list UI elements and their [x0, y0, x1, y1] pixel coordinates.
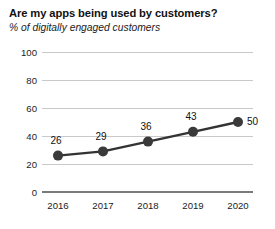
- ytick-label-100: 100: [21, 47, 37, 58]
- y-axis-tick-labels: 100 80 60 40 20 0: [21, 47, 37, 198]
- xtick-label-2017: 2017: [92, 200, 113, 211]
- data-point-2019[interactable]: [188, 127, 198, 137]
- data-label-2020: 50: [247, 116, 259, 127]
- ytick-label-20: 20: [26, 159, 37, 170]
- chart-header: Are my apps being used by customers? % o…: [9, 6, 259, 35]
- xtick-label-2020: 2020: [227, 200, 248, 211]
- chart-card: Are my apps being used by customers? % o…: [0, 0, 276, 229]
- data-point-2016[interactable]: [53, 151, 63, 161]
- ytick-label-80: 80: [26, 75, 37, 86]
- data-point-2018[interactable]: [143, 137, 153, 147]
- data-label-2017: 29: [95, 131, 107, 142]
- data-label-2018: 36: [140, 121, 152, 132]
- line-chart-plot: 100 80 60 40 20 0 26 29 36 43: [0, 44, 276, 229]
- ytick-label-40: 40: [26, 131, 37, 142]
- ytick-label-0: 0: [32, 187, 37, 198]
- xtick-label-2018: 2018: [137, 200, 158, 211]
- data-point-2017[interactable]: [98, 146, 108, 156]
- data-label-2019: 43: [185, 111, 197, 122]
- chart-svg: 100 80 60 40 20 0 26 29 36 43: [0, 44, 276, 229]
- x-axis-tick-labels: 2016 2017 2018 2019 2020: [47, 200, 248, 211]
- chart-subtitle: % of digitally engaged customers: [9, 21, 259, 35]
- ytick-label-60: 60: [26, 103, 37, 114]
- data-point-2020[interactable]: [233, 117, 243, 127]
- data-label-2016: 26: [50, 135, 62, 146]
- xtick-label-2016: 2016: [47, 200, 68, 211]
- xtick-label-2019: 2019: [182, 200, 203, 211]
- chart-title: Are my apps being used by customers?: [9, 6, 259, 20]
